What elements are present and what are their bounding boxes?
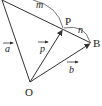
vector-b-line [30,44,90,82]
vector-a-line [2,0,30,82]
label-n: n [78,24,83,35]
label-point-b: B [93,37,100,49]
label-point-p: P [65,15,71,27]
label-vector-a: a [5,43,10,54]
label-m: m [36,0,43,10]
label-vector-b: b [69,64,74,75]
vector-diagram: m P n B a p b O [0,0,102,106]
label-vector-p: p [39,43,45,54]
label-point-o: O [25,86,33,98]
vector-p-line [30,31,62,83]
segment-ab [2,0,91,43]
arc-n [64,27,90,42]
